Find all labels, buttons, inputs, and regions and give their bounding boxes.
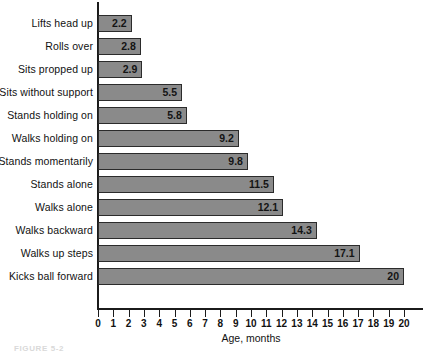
bar-row: Kicks ball forward20 bbox=[0, 267, 441, 290]
x-tick bbox=[113, 310, 114, 317]
category-label-text: Walks backward bbox=[0, 223, 93, 237]
category-label-text: Stands holding on bbox=[0, 108, 93, 122]
x-tick bbox=[144, 310, 145, 317]
category-label: Kicks ball forward bbox=[0, 269, 93, 283]
x-axis-title: Age, months bbox=[98, 332, 404, 344]
category-label: Walks backward bbox=[0, 223, 93, 237]
category-label: Lifts head up bbox=[0, 16, 93, 30]
category-label-text: Rolls over bbox=[0, 39, 93, 53]
bar-container: 14.3 bbox=[98, 222, 317, 239]
bar-row: Rolls over2.8 bbox=[0, 37, 441, 60]
bar-container: 2.9 bbox=[98, 61, 142, 78]
bar-value-label: 9.2 bbox=[219, 131, 234, 146]
category-label-text: Stands alone bbox=[0, 177, 93, 191]
x-tick bbox=[343, 310, 344, 317]
x-tick bbox=[159, 310, 160, 317]
bar-row: Walks alone12.1 bbox=[0, 198, 441, 221]
x-tick-label: 20 bbox=[392, 318, 416, 329]
x-tick bbox=[312, 310, 313, 317]
x-tick bbox=[266, 310, 267, 317]
bar: 14.3 bbox=[98, 222, 317, 239]
bar-container: 11.5 bbox=[98, 176, 274, 193]
bar: 9.8 bbox=[98, 153, 248, 170]
bar-container: 5.5 bbox=[98, 84, 182, 101]
bar-value-label: 2.2 bbox=[112, 16, 127, 31]
x-tick bbox=[175, 310, 176, 317]
bar: 11.5 bbox=[98, 176, 274, 193]
bar-container: 5.8 bbox=[98, 107, 187, 124]
bar: 9.2 bbox=[98, 130, 239, 147]
x-tick bbox=[358, 310, 359, 317]
bar-value-label: 12.1 bbox=[258, 200, 278, 215]
category-label: Sits propped up bbox=[0, 62, 93, 76]
bar-container: 17.1 bbox=[98, 245, 360, 262]
x-tick bbox=[251, 310, 252, 317]
category-label-text: Sits without support bbox=[0, 85, 93, 99]
x-tick bbox=[129, 310, 130, 317]
x-tick bbox=[328, 310, 329, 317]
bar-row: Walks backward14.3 bbox=[0, 221, 441, 244]
x-tick bbox=[205, 310, 206, 317]
bar-value-label: 5.8 bbox=[167, 108, 182, 123]
bar: 20 bbox=[98, 268, 404, 285]
bar: 17.1 bbox=[98, 245, 360, 262]
x-tick bbox=[297, 310, 298, 317]
category-label-text: Walks holding on bbox=[0, 131, 93, 145]
bar: 5.8 bbox=[98, 107, 187, 124]
category-label: Stands holding on bbox=[0, 108, 93, 122]
x-axis-ticks: 01234567891011121314151617181920 bbox=[0, 310, 441, 330]
bar-container: 2.8 bbox=[98, 38, 141, 55]
x-tick bbox=[98, 310, 99, 317]
bar-row: Stands momentarily9.8 bbox=[0, 152, 441, 175]
bar-value-label: 9.8 bbox=[228, 154, 243, 169]
category-label-text: Stands momentarily bbox=[0, 154, 93, 168]
category-label: Rolls over bbox=[0, 39, 93, 53]
category-label: Walks alone bbox=[0, 200, 93, 214]
bar-value-label: 11.5 bbox=[249, 177, 269, 192]
figure-caption: FIGURE 5-2 bbox=[14, 344, 64, 353]
bar: 2.9 bbox=[98, 61, 142, 78]
bar-row: Lifts head up2.2 bbox=[0, 14, 441, 37]
bar-value-label: 20 bbox=[387, 269, 399, 284]
bar-row: Sits propped up2.9 bbox=[0, 60, 441, 83]
category-label: Stands alone bbox=[0, 177, 93, 191]
bar-container: 12.1 bbox=[98, 199, 283, 216]
x-tick bbox=[236, 310, 237, 317]
x-tick bbox=[373, 310, 374, 317]
bar-value-label: 17.1 bbox=[334, 246, 354, 261]
category-label-text: Kicks ball forward bbox=[0, 269, 93, 283]
x-tick bbox=[190, 310, 191, 317]
category-label-text: Lifts head up bbox=[0, 16, 93, 30]
bar: 12.1 bbox=[98, 199, 283, 216]
category-label-text: Walks alone bbox=[0, 200, 93, 214]
bar-container: 9.8 bbox=[98, 153, 248, 170]
category-label: Stands momentarily bbox=[0, 154, 93, 168]
bar-row: Walks holding on9.2 bbox=[0, 129, 441, 152]
category-label: Walks up steps bbox=[0, 246, 93, 260]
bar: 2.2 bbox=[98, 15, 132, 32]
bar-container: 9.2 bbox=[98, 130, 239, 147]
bar-value-label: 14.3 bbox=[291, 223, 311, 238]
bar-row: Stands alone11.5 bbox=[0, 175, 441, 198]
x-tick bbox=[389, 310, 390, 317]
bar-value-label: 2.8 bbox=[121, 39, 136, 54]
bar-row: Walks up steps17.1 bbox=[0, 244, 441, 267]
bar-rows: Lifts head up2.2Rolls over2.8Sits proppe… bbox=[0, 14, 441, 290]
plot-area: Lifts head up2.2Rolls over2.8Sits proppe… bbox=[0, 0, 441, 310]
category-label-text: Sits propped up bbox=[0, 62, 93, 76]
x-tick bbox=[404, 310, 405, 317]
bar-value-label: 2.9 bbox=[123, 62, 138, 77]
bar-container: 2.2 bbox=[98, 15, 132, 32]
bar-row: Sits without support5.5 bbox=[0, 83, 441, 106]
bar-chart: Lifts head up2.2Rolls over2.8Sits proppe… bbox=[0, 0, 441, 355]
x-tick bbox=[220, 310, 221, 317]
category-label: Sits without support bbox=[0, 85, 93, 99]
category-label-text: Walks up steps bbox=[0, 246, 93, 260]
bar: 5.5 bbox=[98, 84, 182, 101]
bar-value-label: 5.5 bbox=[163, 85, 178, 100]
category-label: Walks holding on bbox=[0, 131, 93, 145]
bar: 2.8 bbox=[98, 38, 141, 55]
x-tick bbox=[282, 310, 283, 317]
bar-container: 20 bbox=[98, 268, 404, 285]
bar-row: Stands holding on5.8 bbox=[0, 106, 441, 129]
